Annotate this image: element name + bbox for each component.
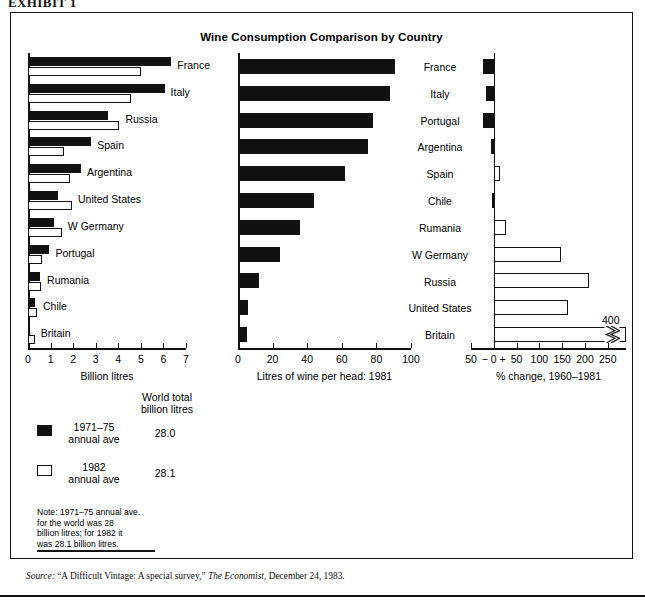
x-axis-tick bbox=[471, 343, 472, 348]
bar-total-consumption-italy-s1 bbox=[28, 94, 131, 103]
bar-per-head-1981-britain bbox=[238, 327, 247, 342]
legend-label-line1-1: 1982 bbox=[59, 461, 129, 473]
bar-pct-change-1960-1981-united-states bbox=[494, 300, 568, 315]
annotation-400: 400 bbox=[602, 314, 620, 326]
legend-label-line1-0: 1971–75 bbox=[59, 421, 129, 433]
bar-per-head-1981-argentina bbox=[238, 139, 368, 154]
bar-total-consumption-portugal-s0 bbox=[28, 245, 49, 254]
chart-panel-per-head: 020406080100Litres of wine per head: 198… bbox=[238, 53, 411, 388]
x-axis-tick bbox=[163, 343, 164, 348]
x-axis-tick bbox=[585, 343, 586, 348]
bar-per-head-1981-france bbox=[238, 59, 395, 74]
legend-label-line2-0: annual ave bbox=[59, 433, 129, 445]
shared-category-label-united-states: United States bbox=[403, 302, 477, 314]
category-label-united-states: United States bbox=[78, 193, 141, 205]
bar-per-head-1981-w-germany bbox=[238, 247, 280, 262]
legend-header-sub: billion litres bbox=[107, 403, 227, 415]
legend-swatch-light bbox=[37, 465, 52, 476]
bar-total-consumption-w-germany-s0 bbox=[28, 218, 54, 227]
category-label-france: France bbox=[177, 59, 210, 71]
chart-title: Wine Consumption Comparison by Country bbox=[11, 31, 632, 43]
shared-category-label-france: France bbox=[403, 61, 477, 73]
axis-break-zigzag-icon bbox=[604, 326, 620, 343]
bar-per-head-1981-rumania bbox=[238, 220, 300, 235]
bar-total-consumption-britain-s1 bbox=[28, 335, 35, 344]
bar-per-head-1981-spain bbox=[238, 166, 345, 181]
x-axis-tick bbox=[118, 343, 119, 348]
category-label-britain: Britain bbox=[41, 327, 71, 339]
legend-value-0: 28.0 bbox=[135, 427, 195, 439]
bar-total-consumption-chile-s0 bbox=[28, 298, 35, 307]
bar-pct-change-1960-1981-spain bbox=[494, 166, 500, 181]
x-axis-line bbox=[238, 348, 411, 350]
x-axis-tick bbox=[186, 343, 187, 348]
legend-header: World total bbox=[107, 391, 227, 403]
shared-category-label-spain: Spain bbox=[403, 168, 477, 180]
chart-legend: World totalbillion litres1971–75annual a… bbox=[27, 391, 287, 541]
bar-pct-change-1960-1981-russia bbox=[494, 273, 589, 288]
x-axis-tick bbox=[73, 343, 74, 348]
category-label-rumania: Rumania bbox=[47, 274, 89, 286]
bar-pct-change-1960-1981-italy bbox=[486, 86, 494, 101]
x-axis-tick bbox=[307, 343, 308, 348]
x-axis-tick bbox=[238, 343, 239, 348]
shared-category-label-w-germany: W Germany bbox=[403, 249, 477, 261]
category-label-portugal: Portugal bbox=[55, 247, 94, 259]
x-axis-tick bbox=[51, 343, 52, 348]
shared-category-label-russia: Russia bbox=[403, 276, 477, 288]
x-axis-tick bbox=[539, 343, 540, 348]
x-axis-caption: Billion litres bbox=[28, 370, 186, 382]
bar-total-consumption-russia-s1 bbox=[28, 121, 119, 130]
x-axis-tick-label: 250 bbox=[588, 353, 628, 365]
legend-label-line2-1: annual ave bbox=[59, 473, 129, 485]
x-axis-line bbox=[471, 348, 626, 350]
shared-category-label-italy: Italy bbox=[403, 88, 477, 100]
category-label-russia: Russia bbox=[125, 113, 157, 125]
bar-pct-change-1960-1981-chile bbox=[492, 193, 494, 208]
exhibit-label: EXHIBIT 1 bbox=[8, 0, 77, 11]
x-axis-tick bbox=[376, 343, 377, 348]
category-label-w-germany: W Germany bbox=[68, 220, 124, 232]
bar-pct-change-1960-1981-argentina bbox=[491, 139, 494, 154]
chart-panel-pct-change: 50− 0 +50100150200250% change, 1960–1981… bbox=[471, 53, 626, 388]
legend-value-1: 28.1 bbox=[135, 467, 195, 479]
bar-total-consumption-rumania-s1 bbox=[28, 282, 41, 291]
legend-swatch-dark bbox=[37, 425, 52, 436]
category-label-chile: Chile bbox=[43, 300, 67, 312]
shared-category-label-britain: Britain bbox=[403, 329, 477, 341]
bar-total-consumption-argentina-s1 bbox=[28, 174, 70, 183]
category-label-italy: Italy bbox=[171, 86, 190, 98]
source-rule bbox=[37, 550, 155, 552]
bar-pct-change-1960-1981-france bbox=[483, 59, 493, 74]
shared-category-label-chile: Chile bbox=[403, 195, 477, 207]
exhibit-page: EXHIBIT 1 Wine Consumption Comparison by… bbox=[0, 0, 645, 603]
bar-per-head-1981-chile bbox=[238, 193, 314, 208]
bar-per-head-1981-portugal bbox=[238, 113, 373, 128]
x-axis-tick bbox=[517, 343, 518, 348]
x-axis-caption: Litres of wine per head: 1981 bbox=[238, 370, 411, 382]
bar-total-consumption-france-s1 bbox=[28, 67, 141, 76]
x-axis-tick bbox=[608, 343, 609, 348]
chart-panel-total-consumption: 01234567Billion litresFranceItalyRussiaS… bbox=[28, 53, 186, 388]
shared-category-label-portugal: Portugal bbox=[403, 115, 477, 127]
source-prefix: Source: bbox=[26, 571, 55, 581]
bar-total-consumption-france-s0 bbox=[28, 57, 171, 66]
bar-total-consumption-portugal-s1 bbox=[28, 255, 42, 264]
x-axis-tick bbox=[562, 343, 563, 348]
bar-pct-change-1960-1981-w-germany bbox=[494, 247, 561, 262]
chart-frame: Wine Consumption Comparison by Country 0… bbox=[10, 12, 633, 559]
bar-total-consumption-britain-s0 bbox=[28, 325, 30, 334]
category-label-spain: Spain bbox=[97, 139, 124, 151]
x-axis-tick bbox=[96, 343, 97, 348]
bar-total-consumption-spain-s0 bbox=[28, 137, 91, 146]
bar-total-consumption-argentina-s0 bbox=[28, 164, 81, 173]
shared-category-label-argentina: Argentina bbox=[403, 141, 477, 153]
bar-per-head-1981-italy bbox=[238, 86, 390, 101]
bar-pct-change-1960-1981-portugal bbox=[483, 113, 494, 128]
bar-total-consumption-italy-s0 bbox=[28, 84, 165, 93]
bar-total-consumption-chile-s1 bbox=[28, 308, 37, 317]
x-axis-tick-label: 7 bbox=[166, 353, 206, 365]
bar-total-consumption-w-germany-s1 bbox=[28, 228, 62, 237]
bar-total-consumption-russia-s0 bbox=[28, 111, 108, 120]
x-axis-tick bbox=[494, 343, 495, 348]
